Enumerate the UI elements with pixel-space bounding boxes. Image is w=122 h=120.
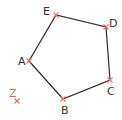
- vertex-labels: ABCDEZ: [9, 5, 117, 117]
- pentagon-outline: [29, 15, 110, 99]
- point-a-cross-icon: [27, 59, 32, 64]
- pentagon-diagram: ABCDEZ: [0, 0, 122, 120]
- point-z-label: Z: [9, 87, 17, 100]
- point-b-label: B: [61, 104, 69, 117]
- point-e-label: E: [43, 5, 50, 18]
- point-a-label: A: [18, 55, 26, 68]
- vertex-markers: [15, 13, 113, 104]
- point-b-cross-icon: [61, 97, 66, 102]
- point-c-label: C: [107, 85, 115, 98]
- point-d-label: D: [109, 17, 117, 30]
